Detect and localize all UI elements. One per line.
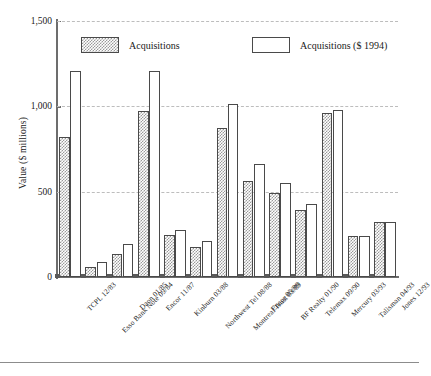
- plot-area: [57, 21, 398, 277]
- bar-acquisitions-1994: [175, 230, 186, 277]
- legend-label-acquisitions: Acquisitions: [129, 40, 180, 51]
- y-tick-label-500: 500: [8, 187, 52, 197]
- bar-acquisitions: [269, 193, 280, 277]
- bar-acquisitions: [217, 128, 228, 277]
- legend-swatch-acquisitions-1994-icon: [252, 37, 290, 53]
- x-tick-mark: [160, 274, 165, 278]
- bottom-divider: [0, 362, 419, 363]
- bar-acquisitions: [190, 247, 201, 277]
- legend-swatch-acquisitions-icon: [81, 37, 119, 53]
- legend-label-acquisitions-1994: Acquisitions ($ 1994): [300, 40, 387, 51]
- bar-acquisitions-1994: [254, 164, 265, 277]
- x-tick-mark: [238, 274, 243, 278]
- legend-item-acquisitions: Acquisitions: [81, 37, 180, 53]
- bar-acquisitions: [138, 111, 149, 277]
- x-tick-label: Encor 05/89: [269, 280, 302, 313]
- x-tick-label: TCPL 12/83: [85, 280, 118, 313]
- x-tick-mark: [291, 274, 296, 278]
- x-tick-mark: [264, 274, 269, 278]
- bar-acquisitions: [322, 113, 333, 277]
- gridline-1500: [57, 21, 398, 22]
- bar-acquisitions: [348, 236, 359, 277]
- legend-item-acquisitions-1994: Acquisitions ($ 1994): [252, 37, 387, 53]
- bar-acquisitions-1994: [202, 241, 213, 277]
- y-axis-tick-labels: 1,500 1,000 500 0: [4, 21, 52, 277]
- x-tick-mark: [317, 274, 322, 278]
- y-tick-label-1500: 1,500: [8, 16, 52, 26]
- bar-acquisitions-1994: [306, 204, 317, 277]
- bar-acquisitions-1994: [70, 71, 81, 277]
- bar-acquisitions: [164, 235, 175, 277]
- bar-acquisitions-1994: [280, 183, 291, 277]
- x-tick-mark: [186, 274, 191, 278]
- bar-acquisitions-1994: [385, 222, 396, 277]
- x-tick-mark: [81, 274, 86, 278]
- x-tick-mark: [55, 274, 60, 278]
- bar-acquisitions: [85, 267, 96, 277]
- bar-acquisitions-1994: [97, 262, 108, 277]
- bar-acquisitions: [112, 254, 123, 277]
- bar-acquisitions: [243, 181, 254, 277]
- bar-acquisitions-1994: [228, 104, 239, 277]
- bar-acquisitions: [295, 210, 306, 277]
- x-tick-mark: [107, 274, 112, 278]
- bar-acquisitions-1994: [123, 244, 134, 277]
- bar-acquisitions: [374, 222, 385, 277]
- bar-acquisitions-1994: [359, 236, 370, 277]
- x-axis-tick-labels: TCPL 12/83Esso Bank Note 09/84Daon 01/85…: [0, 280, 419, 372]
- x-tick-label: Kinburn 03/88: [192, 280, 230, 318]
- x-tick-mark: [343, 274, 348, 278]
- bar-acquisitions-1994: [333, 110, 344, 277]
- bar-acquisitions-1994: [149, 71, 160, 278]
- x-tick-mark: [212, 274, 217, 278]
- y-tick-label-1000: 1,000: [8, 101, 52, 111]
- bar-acquisitions: [59, 137, 70, 277]
- x-tick-mark: [133, 274, 138, 278]
- x-tick-mark: [369, 274, 374, 278]
